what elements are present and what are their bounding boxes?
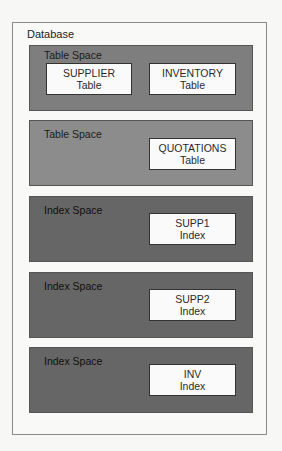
object-name: QUOTATIONS [159, 142, 227, 154]
object-name: INVENTORY [162, 67, 223, 79]
supp1-index: SUPP1 Index [149, 213, 236, 245]
inventory-table: INVENTORY Table [149, 63, 236, 95]
supplier-table: SUPPLIER Table [46, 63, 132, 95]
object-type: Table [180, 79, 205, 91]
index-space-1: Index Space SUPP1 Index [29, 196, 253, 262]
table-space-1: Table Space SUPPLIER Table INVENTORY Tab… [29, 45, 253, 111]
database-label: Database [27, 28, 74, 40]
object-name: SUPPLIER [63, 67, 115, 79]
table-space-2: Table Space QUOTATIONS Table [29, 120, 253, 186]
quotations-table: QUOTATIONS Table [149, 138, 236, 170]
space-label: Table Space [44, 49, 102, 61]
database-container: Database Table Space SUPPLIER Table INVE… [12, 22, 267, 435]
index-space-3: Index Space INV Index [29, 347, 253, 413]
object-type: Index [180, 305, 206, 317]
space-label: Table Space [44, 128, 102, 140]
space-label: Index Space [44, 355, 102, 367]
object-type: Table [180, 154, 205, 166]
object-type: Index [180, 380, 206, 392]
space-label: Index Space [44, 280, 102, 292]
object-type: Table [76, 79, 101, 91]
object-name: INV [184, 368, 202, 380]
object-name: SUPP2 [175, 293, 209, 305]
space-label: Index Space [44, 204, 102, 216]
index-space-2: Index Space SUPP2 Index [29, 272, 253, 338]
object-name: SUPP1 [175, 217, 209, 229]
inv-index: INV Index [149, 364, 236, 396]
object-type: Index [180, 229, 206, 241]
supp2-index: SUPP2 Index [149, 289, 236, 321]
